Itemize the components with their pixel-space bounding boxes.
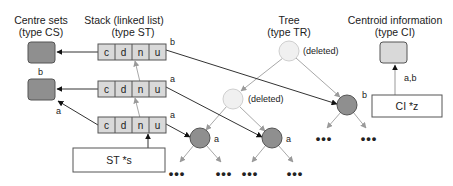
tree-node-a-left[interactable] [190,128,210,148]
centre-set-box-a[interactable] [28,79,55,100]
stack-cell-n: n [138,47,144,58]
stack-cell-d: d [121,84,127,95]
stack-row-label: b [170,37,175,47]
stack-cell-u: u [155,84,161,95]
stack-row-label: a [170,74,175,84]
stack-cell-d: d [121,120,127,131]
tree-title-line2: (type TR) [267,26,311,38]
stack-pointer-label: ST *s [106,154,131,166]
centroid-pointer-label: CI *z [396,100,419,112]
deleted-label: (deleted) [303,46,339,56]
centre-sets-title: Centre sets (type CS) [14,14,68,38]
tree-node-b[interactable] [337,95,357,115]
centre-sets-title-line1: Centre sets [14,14,68,26]
tree-node-label-b: b [362,90,367,100]
stack-cell-n: n [138,84,144,95]
tree-title: Tree (type TR) [267,14,311,38]
tree-node-left-deleted[interactable] [223,89,243,109]
centroid-title: Centroid information (type CI) [348,14,443,38]
centroid-box[interactable] [380,42,407,63]
stack-cell-u: u [155,47,161,58]
centroid-arrow-label: a,b [404,73,417,83]
tree-node-label-a: a [214,134,219,144]
stack-title-line1: Stack (linked list) [84,14,163,26]
centre-set-box-b[interactable] [28,42,55,63]
ellipsis: ••• [169,166,186,181]
centre-sets-title-line2: (type CS) [19,26,63,38]
tree-node-label-a: a [286,134,291,144]
tree-node-root-deleted[interactable] [279,41,299,61]
stack-title-line2: (type ST) [111,26,154,38]
tree-node-a-middle[interactable] [262,128,282,148]
stack-cell-c: c [104,47,109,58]
stack-cell-d: d [121,47,127,58]
stack-cell-c: c [104,84,109,95]
stack-row-label: a [170,110,175,120]
ellipsis: ••• [242,166,259,181]
stack-row[interactable]: c d n u [98,44,166,60]
ellipsis: ••• [361,131,378,146]
ellipsis: ••• [216,166,233,181]
ellipsis: ••• [316,131,333,146]
stack-cell-n: n [138,120,144,131]
tree-stack-diagram: Centre sets (type CS) Stack (linked list… [0,0,453,186]
centre-set-label-b: b [38,67,43,77]
stack-row[interactable]: c d n u [98,117,166,133]
tree-title-line1: Tree [278,14,299,26]
stack-row[interactable]: c d n u [98,81,166,97]
centre-set-label-a: a [56,106,61,116]
centroid-title-line1: Centroid information [348,14,443,26]
stack-cell-u: u [155,120,161,131]
stack-title: Stack (linked list) (type ST) [84,14,163,38]
centroid-title-line2: (type CI) [375,26,415,38]
stack-cell-c: c [104,120,109,131]
ellipsis: ••• [287,166,304,181]
deleted-label: (deleted) [248,94,284,104]
